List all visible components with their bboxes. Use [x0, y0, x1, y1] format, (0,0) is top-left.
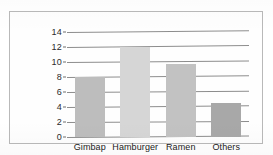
chart-page: 02468101214 GimbapHamburgerRamenOthers [0, 0, 273, 155]
x-axis-label-others: Others [212, 142, 240, 152]
y-tick-label-8: 8 [57, 72, 62, 82]
x-axis-label-gimbap: Gimbap [74, 142, 106, 152]
y-tick-label-2: 2 [57, 117, 62, 127]
bar-gimbap [75, 77, 105, 137]
x-axis-label-ramen: Ramen [166, 142, 196, 152]
y-tick-mark-8 [63, 77, 66, 78]
y-tick-mark-12 [63, 47, 66, 48]
y-tick-label-12: 12 [52, 42, 62, 52]
plot-area: 02468101214 GimbapHamburgerRamenOthers [67, 32, 249, 137]
bar-ramen [166, 64, 196, 138]
bar-others [211, 103, 241, 137]
x-axis-label-hamburger: Hamburger [112, 142, 158, 152]
y-tick-label-0: 0 [57, 132, 62, 142]
y-tick-mark-10 [63, 62, 66, 63]
y-tick-mark-2 [63, 122, 66, 123]
y-tick-mark-6 [63, 92, 66, 93]
chart-frame: 02468101214 GimbapHamburgerRamenOthers [9, 11, 263, 144]
y-tick-label-14: 14 [52, 27, 62, 37]
y-tick-label-6: 6 [57, 87, 62, 97]
y-tick-mark-0 [63, 137, 66, 138]
y-tick-label-4: 4 [57, 102, 62, 112]
y-tick-mark-4 [63, 107, 66, 108]
y-tick-mark-14 [63, 32, 66, 33]
bar-hamburger [120, 47, 150, 137]
y-tick-label-10: 10 [52, 57, 62, 67]
bar-series [67, 32, 249, 137]
